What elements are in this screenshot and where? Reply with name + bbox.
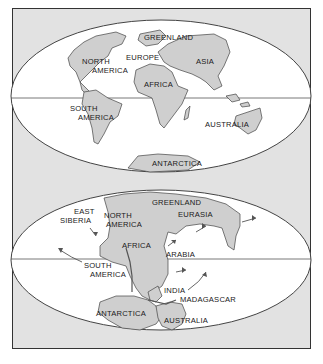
- label-greenland: GREENLAND: [152, 198, 201, 207]
- label-south-america-line1: SOUTH: [70, 104, 98, 113]
- label-north-america-line1: NORTH: [82, 57, 110, 66]
- label-east-siberia-line2: SIBERIA: [60, 216, 92, 225]
- label-asia: ASIA: [196, 57, 215, 66]
- label-south-america-line1: SOUTH: [84, 261, 112, 270]
- label-antarctica: ANTARCTICA: [96, 309, 147, 318]
- label-south-america-line2: AMERICA: [90, 270, 127, 279]
- label-north-america-line2: AMERICA: [106, 220, 143, 229]
- label-north-america-line2: AMERICA: [92, 66, 129, 75]
- label-africa: AFRICA: [122, 241, 152, 250]
- label-india: INDIA: [164, 286, 186, 295]
- pangaea-map: EAST SIBERIA NORTH AMERICA GREENLAND EUR…: [11, 190, 311, 330]
- label-greenland: GREENLAND: [144, 33, 193, 42]
- label-australia: AUSTRALIA: [164, 316, 209, 325]
- label-madagascar: MADAGASCAR: [180, 295, 236, 304]
- label-eurasia: EURASIA: [178, 210, 213, 219]
- label-south-america-line2: AMERICA: [78, 113, 115, 122]
- label-antarctica: ANTARCTICA: [152, 159, 203, 168]
- label-africa: AFRICA: [144, 80, 174, 89]
- label-east-siberia-line1: EAST: [74, 207, 95, 216]
- continental-drift-figure: GREENLAND NORTH AMERICA EUROPE ASIA AFRI…: [0, 0, 323, 364]
- label-arabia: ARABIA: [166, 250, 196, 259]
- present-day-map: GREENLAND NORTH AMERICA EUROPE ASIA AFRI…: [11, 20, 311, 172]
- label-australia: AUSTRALIA: [205, 120, 250, 129]
- label-north-america-line1: NORTH: [104, 211, 132, 220]
- label-europe: EUROPE: [126, 53, 159, 62]
